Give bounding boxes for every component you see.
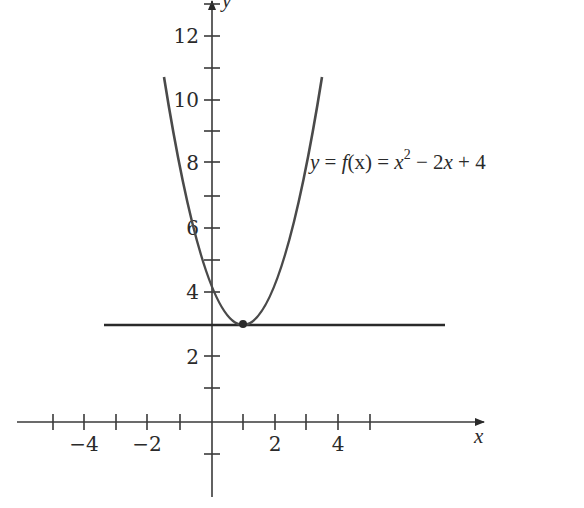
function-graph: −4 −2 2 4 2 4 6 8 10 12 x y y = f(x) = x… (0, 0, 584, 508)
x-tick-label: 4 (332, 432, 345, 456)
x-tick-label: 2 (269, 432, 282, 456)
y-tick-label: 4 (186, 280, 199, 304)
equation-label: y = f(x) = x2 − 2x + 4 (308, 147, 486, 174)
y-tick-label: 2 (186, 345, 199, 369)
y-tick-label: 12 (174, 24, 199, 48)
vertex-point (239, 320, 247, 328)
y-tick-label: 8 (186, 151, 199, 175)
x-tick-label: −2 (132, 432, 161, 456)
x-tick-label: −4 (69, 432, 98, 456)
x-axis-label: x (473, 424, 484, 448)
y-tick-label: 10 (174, 88, 199, 112)
y-axis-label: y (220, 0, 232, 12)
